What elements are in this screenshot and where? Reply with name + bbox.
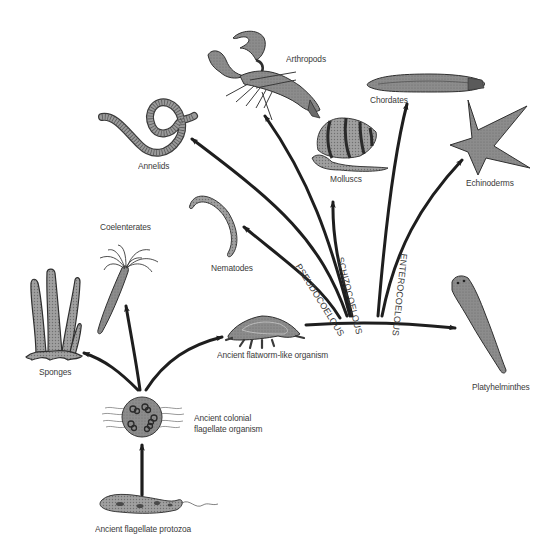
molluscs-illustration (312, 118, 388, 171)
flagellate-protozoa-illustration (100, 494, 218, 513)
label-nematodes: Nematodes (211, 262, 253, 273)
label-flagellate-protozoa: Ancient flagellate protozoa (95, 523, 191, 534)
label-colonial-flagellate-line2: flagellate organism (194, 423, 263, 434)
label-arthropods: Arthropods (286, 53, 326, 64)
echinoderms-illustration (450, 100, 530, 175)
label-chordates: Chordates (370, 94, 408, 105)
label-coelenterates: Coelenterates (100, 221, 151, 232)
diagram-graphics (0, 0, 558, 540)
platyhelminthes-illustration (452, 276, 506, 373)
arrow-colonial-to-sponges (84, 353, 138, 390)
label-platyhelminthes: Platyhelminthes (472, 381, 530, 392)
evolution-diagram: Arthropods Chordates Annelids Molluscs E… (0, 0, 558, 540)
arthropods-illustration (208, 31, 320, 120)
colonial-flagellate-illustration (102, 397, 184, 437)
label-molluscs: Molluscs (330, 173, 362, 184)
sponges-illustration (26, 269, 82, 360)
chordates-illustration (367, 74, 484, 92)
label-colonial-flagellate-line1: Ancient colonial (194, 412, 251, 423)
annelids-illustration (102, 102, 194, 153)
label-annelids: Annelids (138, 160, 169, 171)
label-flatworm-ancestor: Ancient flatworm-like organism (217, 349, 328, 360)
arrow-colonial-to-coelenterates (126, 306, 140, 390)
arrow-colonial-to-flatworm (146, 337, 222, 390)
nematodes-illustration (189, 196, 236, 257)
label-sponges: Sponges (39, 366, 71, 377)
label-echinoderms: Echinoderms (466, 177, 514, 188)
flatworm-ancestor-illustration (226, 316, 304, 348)
